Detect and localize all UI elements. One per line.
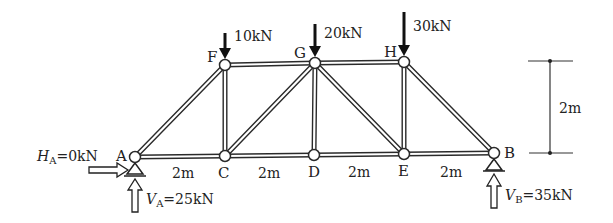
reaction-label-va: VA=25kN [146,191,214,209]
span-label-4: 2m [440,164,462,180]
node-h [399,57,410,68]
load-arrow-h [398,12,410,56]
node-g [310,58,321,69]
node-e [399,149,410,160]
height-dimension-label: 2m [559,100,581,116]
node-d [309,150,320,161]
member-hb [404,62,494,153]
ha-symbol: H [36,148,50,164]
node-label-b: B [504,144,515,162]
reaction-arrow-ha [89,163,128,177]
load-arrow-f [219,33,231,59]
load-label-g: 20kN [324,25,363,41]
member-gh [315,62,404,63]
member-de [314,154,404,155]
member-cd [225,155,314,156]
truss-members [135,62,494,157]
node-a [130,152,141,163]
load-label-h: 30kN [413,18,452,34]
reaction-label-ha: HA=0kN [36,148,98,166]
span-label-2: 2m [258,165,280,181]
node-label-f: F [207,48,217,66]
node-label-g: G [294,44,306,62]
load-arrow-g [309,24,321,57]
span-label-3: 2m [348,164,370,180]
vb-value: =35kN [522,187,572,203]
reaction-label-vb: VB=35kN [505,187,573,205]
node-f [220,60,231,71]
member-eb [404,153,494,154]
member-ac [135,156,225,157]
span-label-1: 2m [172,165,194,181]
member-cg [225,63,315,156]
reaction-arrow-vb [487,174,501,208]
member-ge [315,63,404,154]
reaction-arrow-va [128,179,142,212]
node-b [489,148,500,159]
roller-support-b [483,159,505,171]
node-label-h: H [384,43,397,61]
node-label-c: C [218,164,229,182]
vb-subscript: B [515,194,522,205]
truss-diagram: 10kN 20kN 30kN F G H A C D E B 2m 2m 2m … [0,0,613,223]
member-gd [314,63,315,155]
member-af [135,65,225,157]
va-value: =25kN [163,191,213,207]
ha-value: =0kN [56,148,97,164]
load-label-f: 10kN [234,28,273,44]
node-c [220,151,231,162]
node-label-e: E [398,162,409,180]
node-label-d: D [308,163,320,181]
